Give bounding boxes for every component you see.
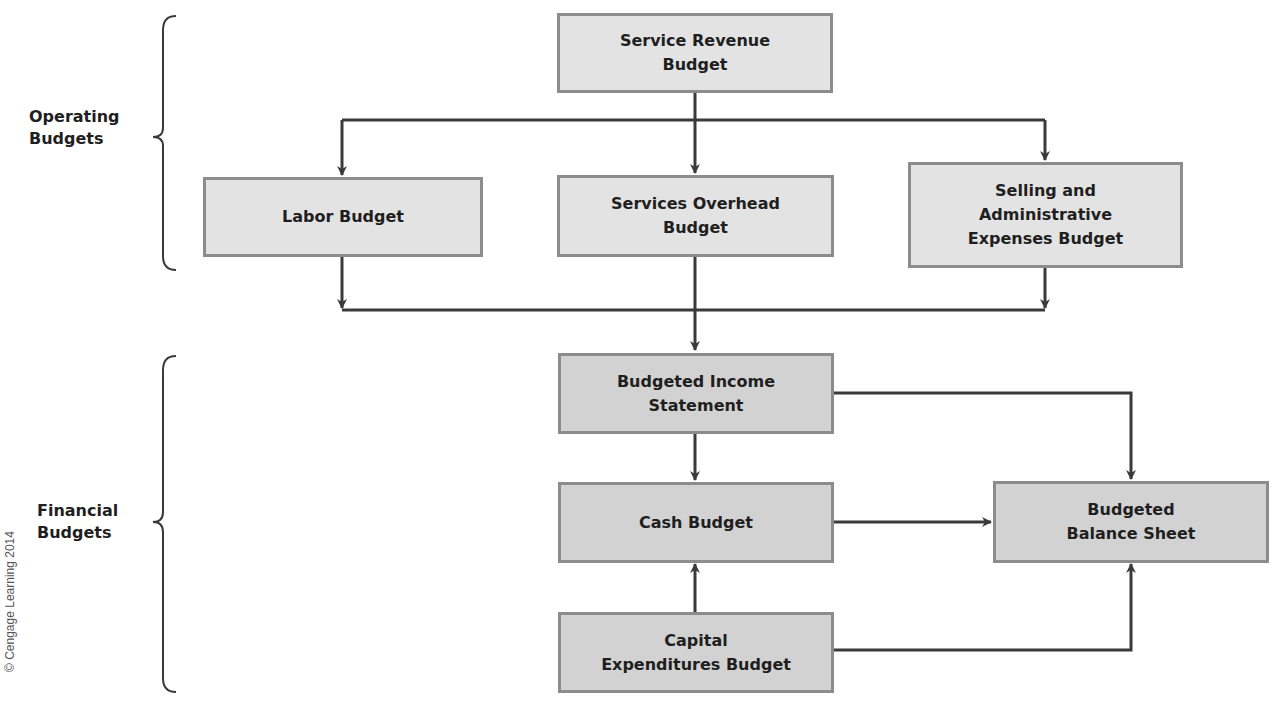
node-service-revenue-budget: Service Revenue Budget	[557, 13, 833, 93]
edge-capital-to-balance	[833, 564, 1131, 650]
financial-budgets-label: Financial Budgets	[37, 500, 118, 544]
copyright-credit: © Cengage Learning 2014	[3, 552, 17, 672]
node-capital-expenditures-budget: Capital Expenditures Budget	[558, 612, 834, 693]
node-selling-admin-expenses-budget: Selling and Administrative Expenses Budg…	[908, 162, 1183, 268]
financial-brace	[153, 356, 176, 692]
node-services-overhead-budget: Services Overhead Budget	[557, 175, 834, 257]
operating-brace	[153, 16, 176, 270]
node-cash-budget: Cash Budget	[558, 482, 834, 563]
operating-budgets-label: Operating Budgets	[29, 106, 120, 150]
node-labor-budget: Labor Budget	[203, 177, 483, 257]
edge-income-to-balance	[833, 393, 1131, 479]
node-budgeted-income-statement: Budgeted Income Statement	[558, 353, 834, 434]
node-budgeted-balance-sheet: Budgeted Balance Sheet	[993, 481, 1269, 563]
